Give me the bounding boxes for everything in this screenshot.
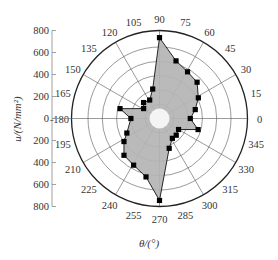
data-series [117, 35, 201, 203]
polar-chart: 0153045607590105120135150165-18019521022… [0, 0, 278, 260]
angle-tick-label: 90 [154, 14, 165, 25]
angle-tick-label: 15 [251, 88, 262, 99]
angle-tick-label: 165 [55, 88, 71, 99]
radial-tick-label: 200 [33, 91, 49, 102]
angle-tick-label: 45 [225, 43, 236, 54]
data-marker [157, 198, 162, 203]
angle-tick-label: 300 [202, 200, 218, 211]
data-marker [128, 116, 133, 121]
radial-tick-label: 600 [33, 47, 49, 58]
radial-tick-label: 0 [44, 113, 49, 124]
data-marker [174, 133, 179, 138]
radial-tick-label: 200 [33, 135, 49, 146]
data-marker [117, 106, 122, 111]
data-marker [195, 127, 200, 132]
angle-tick-label: 120 [102, 27, 118, 38]
radial-tick-label: 400 [33, 69, 49, 80]
angle-tick-label: 210 [65, 164, 81, 175]
angle-tick-label: 330 [238, 164, 254, 175]
center-hub [150, 109, 170, 129]
x-axis-label: θ/(°) [139, 237, 160, 250]
data-marker [196, 95, 201, 100]
angle-tick-label: 60 [204, 27, 215, 38]
angle-tick-label: 150 [65, 64, 81, 75]
y-axis-label: u/(N/mm²) [11, 96, 24, 142]
angle-tick-label: 225 [81, 184, 97, 195]
angle-tick-label: 30 [241, 64, 252, 75]
data-marker [173, 58, 178, 63]
radial-tick-label: 800 [33, 201, 49, 212]
data-marker [143, 174, 148, 179]
data-marker [157, 35, 162, 40]
data-marker [131, 163, 136, 168]
angle-tick-label: -180 [50, 114, 69, 125]
data-marker [150, 86, 155, 91]
data-marker [141, 100, 146, 105]
data-marker [185, 69, 190, 74]
radial-axis: 8006004002000200400600800 [33, 25, 71, 212]
data-marker [194, 80, 199, 85]
angle-tick-label: 135 [81, 43, 97, 54]
data-marker [147, 97, 152, 102]
angle-tick-label: 345 [248, 139, 264, 150]
polar-chart-svg: 0153045607590105120135150165-18019521022… [0, 0, 278, 260]
data-marker [167, 146, 172, 151]
data-marker [193, 107, 198, 112]
radial-tick-label: 800 [33, 25, 49, 36]
data-marker [124, 130, 129, 135]
angle-tick-label: 75 [180, 17, 191, 28]
data-marker [188, 116, 193, 121]
angle-tick-label: 270 [152, 214, 168, 225]
angle-tick-label: 285 [178, 210, 194, 221]
data-marker [176, 127, 181, 132]
angle-tick-label: 0 [257, 114, 262, 125]
angle-tick-label: 240 [102, 200, 118, 211]
data-marker [141, 106, 146, 111]
angle-tick-label: 315 [222, 184, 238, 195]
data-marker [121, 139, 126, 144]
data-marker [121, 153, 126, 158]
angle-tick-label: 195 [55, 139, 71, 150]
angle-tick-label: 105 [126, 17, 142, 28]
radial-tick-label: 400 [33, 157, 49, 168]
radial-tick-label: 600 [33, 179, 49, 190]
angle-tick-label: 255 [126, 210, 142, 221]
